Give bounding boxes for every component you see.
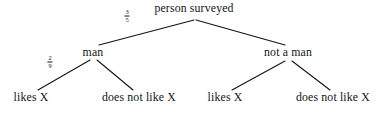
leaf-not-a-man-does-not-like-x-label: does not like X	[296, 90, 370, 104]
leaf-not-a-man-likes-x-label: likes X	[208, 90, 243, 104]
node-man: man	[83, 46, 104, 59]
node-person-surveyed: person surveyed	[154, 2, 233, 15]
fraction-denominator: 9	[47, 63, 52, 70]
tree-edge-root-not-a-man	[196, 20, 285, 45]
leaf-man-does-not-like-x-label: does not like X	[102, 90, 176, 104]
probability-tree-diagram: person surveyed man not a man likes X do…	[0, 0, 387, 113]
tree-edge-man-does-not-like	[97, 60, 133, 90]
tree-edge-notman-likes	[232, 61, 285, 90]
leaf-man-does-not-like-x: does not like X	[102, 91, 176, 104]
leaf-man-likes-x-label: likes X	[14, 90, 49, 104]
tree-edge-notman-does-not-like	[292, 61, 330, 90]
node-not-a-man: not a man	[264, 46, 312, 59]
leaf-man-likes-x: likes X	[14, 91, 49, 104]
leaf-not-a-man-likes-x: likes X	[208, 91, 243, 104]
node-man-label: man	[83, 45, 104, 59]
leaf-not-a-man-does-not-like-x: does not like X	[296, 91, 370, 104]
fraction-denominator: 5	[124, 17, 129, 24]
tree-edge-root-man	[99, 20, 194, 45]
tree-edge-man-likes	[38, 60, 90, 90]
node-person-surveyed-label: person surveyed	[154, 1, 233, 15]
node-not-a-man-label: not a man	[264, 45, 312, 59]
branch-probability-man-to-likes-x: 2 9	[47, 55, 52, 70]
branch-probability-root-to-man: 3 5	[124, 9, 129, 24]
